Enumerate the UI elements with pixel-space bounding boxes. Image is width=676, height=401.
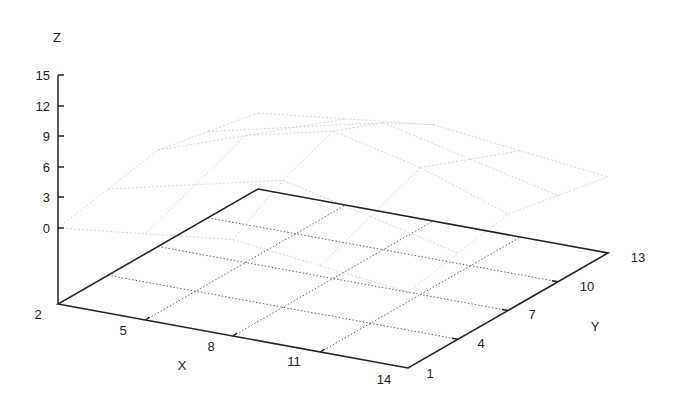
z-tick-label: 9 <box>43 129 50 144</box>
y-tick-label: 10 <box>580 279 594 294</box>
x-tick-label: 11 <box>287 354 301 369</box>
y-tick-label: 13 <box>631 250 645 265</box>
surface-3d-chart: 15 12 9 6 3 0 2 5 8 11 14 1 4 7 10 13 Z … <box>0 0 676 401</box>
z-axis-title: Z <box>53 30 61 45</box>
x-tick-label: 2 <box>34 307 41 322</box>
y-tick-label: 7 <box>528 307 535 322</box>
base-plane-border <box>58 189 608 368</box>
y-tick-label: 1 <box>426 366 433 381</box>
x-axis-title: X <box>178 358 187 373</box>
y-axis-title: Y <box>591 319 600 334</box>
y-tick-label: 4 <box>477 336 484 351</box>
z-tick-label: 15 <box>36 68 50 83</box>
z-tick-label: 0 <box>43 221 50 236</box>
x-tick-label: 14 <box>377 372 391 387</box>
z-tick-label: 6 <box>43 160 50 175</box>
z-tick-label: 3 <box>43 190 50 205</box>
z-tick-label: 12 <box>36 99 50 114</box>
x-tick-label: 8 <box>207 339 214 354</box>
x-tick-label: 5 <box>119 323 126 338</box>
z-axis-ticks <box>58 75 64 228</box>
base-grid <box>108 205 558 352</box>
